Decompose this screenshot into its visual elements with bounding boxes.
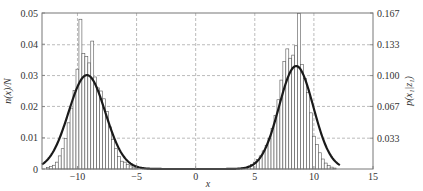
histogram-bar: [97, 88, 100, 169]
y2-tick-label: 0.067: [377, 101, 400, 112]
histogram-bar: [295, 46, 298, 169]
histogram-bar: [94, 77, 97, 169]
histogram-bar: [307, 93, 310, 169]
histogram-bar: [67, 123, 70, 169]
y2-axis-ticks: 0.0330.0670.1000.1330.167: [370, 8, 400, 144]
histogram-bar: [318, 153, 321, 169]
y2-axis-label: p(x₁|z₁): [403, 75, 415, 106]
histogram-bar: [298, 14, 301, 169]
x-tick-label: 15: [368, 171, 378, 182]
histogram-bars: [46, 14, 336, 169]
histogram-bar: [304, 79, 307, 169]
histogram-bar: [91, 41, 94, 169]
histogram-bar: [64, 138, 67, 169]
x-tick-label: −10: [70, 171, 86, 182]
y-axis-label: n(x)/N: [2, 77, 14, 104]
x-tick-label: 5: [252, 171, 257, 182]
chart: −10−5051015 00.010.020.030.040.05 0.0330…: [0, 0, 423, 191]
histogram-bar: [315, 145, 318, 169]
histogram-bar: [283, 61, 286, 169]
y-tick-label: 0.02: [21, 101, 39, 112]
histogram-bar: [108, 127, 111, 169]
histogram-bar: [111, 139, 114, 169]
histogram-bar: [61, 149, 64, 169]
histogram-bar: [85, 57, 88, 169]
y-axis-ticks: 00.010.020.030.040.05: [21, 8, 46, 175]
y-tick-label: 0.04: [21, 39, 39, 50]
histogram-bar: [117, 157, 120, 169]
histogram-bar: [58, 156, 61, 169]
y-tick-label: 0.03: [21, 70, 39, 81]
y-tick-label: 0.01: [21, 132, 39, 143]
y2-tick-label: 0.100: [377, 70, 400, 81]
histogram-bar: [301, 64, 304, 169]
histogram-bar: [324, 163, 327, 169]
histogram-bar: [88, 63, 91, 169]
y-tick-label: 0.05: [21, 8, 39, 19]
histogram-bar: [73, 90, 76, 169]
histogram-bar: [126, 164, 129, 169]
x-axis-label: x: [205, 178, 211, 189]
histogram-bar: [52, 165, 55, 169]
histogram-bar: [114, 149, 117, 169]
histogram-bar: [79, 19, 82, 169]
x-tick-label: 10: [309, 171, 319, 182]
x-tick-label: 0: [193, 171, 198, 182]
histogram-bar: [292, 55, 295, 169]
y2-tick-label: 0.133: [377, 39, 400, 50]
histogram-bar: [312, 136, 315, 169]
histogram-bar: [82, 54, 85, 169]
histogram-bar: [123, 162, 126, 169]
histogram-bar: [286, 49, 289, 169]
histogram-bar: [309, 113, 312, 169]
x-tick-label: −5: [131, 171, 142, 182]
y2-tick-label: 0.167: [377, 8, 400, 19]
histogram-bar: [120, 161, 123, 169]
y-tick-label: 0: [33, 164, 38, 175]
histogram-bar: [70, 108, 73, 169]
histogram-bar: [321, 159, 324, 169]
histogram-bar: [327, 166, 330, 169]
y2-tick-label: 0.033: [377, 133, 400, 144]
histogram-bar: [55, 162, 58, 169]
